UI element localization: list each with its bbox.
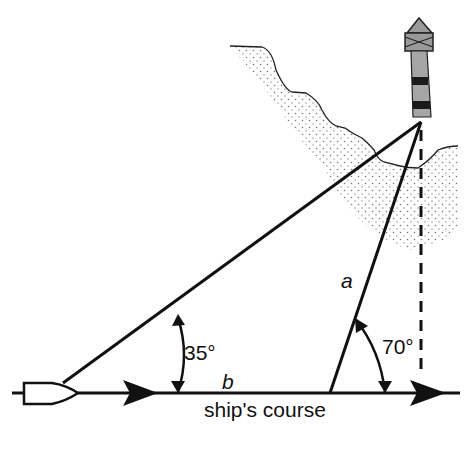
diagram-canvas: 35° 70° a b ship's course — [0, 0, 472, 455]
lighthouse-icon — [405, 18, 433, 117]
course-label: ship's course — [204, 399, 326, 420]
side-label-a: a — [341, 270, 353, 291]
angle-label-70: 70° — [382, 336, 414, 357]
sight-line-1 — [63, 122, 421, 383]
ship-icon — [24, 383, 78, 404]
angle-label-35: 35° — [184, 342, 216, 363]
diagram-svg — [0, 0, 472, 455]
angle-arc-35 — [171, 314, 185, 393]
side-label-b: b — [222, 371, 234, 392]
